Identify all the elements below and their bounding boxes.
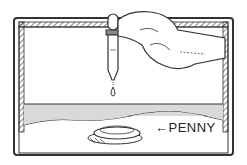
penny-label: ←PENNY bbox=[155, 120, 216, 135]
illustration bbox=[0, 0, 247, 165]
